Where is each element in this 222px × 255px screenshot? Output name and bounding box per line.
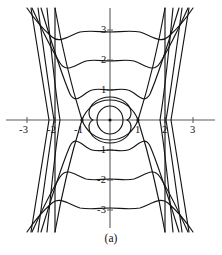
x-tick-label-neg3: -3 bbox=[19, 124, 28, 135]
x-tick-label-pos3: 3 bbox=[190, 124, 195, 135]
y-tick-label-pos2: 2 bbox=[101, 54, 106, 65]
saddle-right-point bbox=[136, 118, 139, 121]
y-tick-label-neg2: -2 bbox=[97, 174, 106, 185]
y-tick-label-neg1: -1 bbox=[97, 144, 106, 155]
y-tick-label-pos1: 1 bbox=[101, 84, 106, 95]
origin-point bbox=[108, 118, 111, 121]
contour-plot-canvas bbox=[0, 0, 222, 235]
x-tick-label-neg2: -2 bbox=[47, 124, 56, 135]
x-tick-label-pos2: 2 bbox=[162, 124, 167, 135]
x-tick-label-pos1: 1 bbox=[135, 124, 140, 135]
y-tick-label-pos3: 3 bbox=[101, 24, 106, 35]
x-tick-label-neg1: -1 bbox=[74, 124, 83, 135]
saddle-left-point bbox=[80, 118, 83, 121]
figure-caption: (a) bbox=[0, 232, 222, 244]
contour-figure: -3 -2 -1 1 2 3 3 2 1 -1 -2 -3 (a) bbox=[0, 0, 222, 255]
y-tick-label-neg3: -3 bbox=[97, 204, 106, 215]
